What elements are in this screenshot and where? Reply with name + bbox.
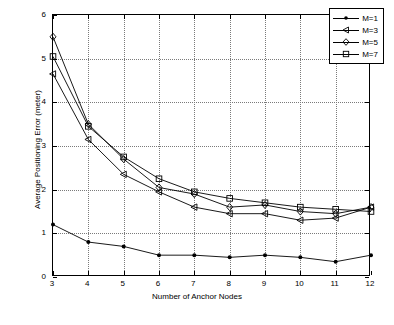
legend-label-m1: M=1 bbox=[362, 14, 378, 23]
data-point-dot bbox=[298, 255, 302, 259]
x-tick-label: 11 bbox=[331, 279, 339, 288]
series-line bbox=[53, 74, 371, 220]
legend-item-m1: M=1 bbox=[333, 12, 378, 24]
x-axis-label: Number of Anchor Nodes bbox=[0, 292, 394, 301]
legend-label-m5: M=5 bbox=[362, 38, 378, 47]
legend-item-m7: M=7 bbox=[333, 48, 378, 60]
chart-container: 34567891011120123456 Number of Anchor No… bbox=[0, 0, 394, 325]
data-point-dot bbox=[334, 260, 338, 264]
legend-label-m3: M=3 bbox=[362, 26, 378, 35]
legend-marker-square-icon bbox=[333, 48, 359, 60]
x-tick-label: 3 bbox=[50, 279, 54, 288]
data-point-triangle-left bbox=[50, 71, 56, 77]
legend-item-m5: M=5 bbox=[333, 36, 378, 48]
legend-marker-dot-icon bbox=[333, 12, 359, 24]
x-tick-label: 12 bbox=[366, 279, 375, 288]
x-tick-mark bbox=[371, 271, 372, 275]
data-point-dot bbox=[192, 253, 196, 257]
y-tick-label: 0 bbox=[24, 272, 46, 281]
series-line bbox=[53, 56, 371, 211]
data-point-dot bbox=[263, 253, 267, 257]
x-tick-label: 10 bbox=[295, 279, 304, 288]
y-tick-mark bbox=[365, 277, 369, 278]
legend-marker-diamond-icon bbox=[333, 36, 359, 48]
data-point-dot bbox=[369, 253, 373, 257]
series-line bbox=[53, 225, 371, 262]
legend-marker-triangle-left-icon bbox=[333, 24, 359, 36]
series-m5 bbox=[50, 33, 374, 217]
data-point-dot bbox=[157, 253, 161, 257]
legend: M=1 M=3 M=5 M=7 bbox=[329, 8, 384, 64]
data-series-layer bbox=[53, 15, 371, 277]
plot-area bbox=[52, 14, 370, 276]
series-m1 bbox=[51, 223, 373, 264]
y-axis-label: Average Positioning Error (meter) bbox=[33, 60, 42, 240]
legend-item-m3: M=3 bbox=[333, 24, 378, 36]
y-tick-mark bbox=[53, 277, 57, 278]
x-tick-label: 9 bbox=[262, 279, 266, 288]
data-point-dot bbox=[228, 255, 232, 259]
legend-label-m7: M=7 bbox=[362, 50, 378, 59]
y-tick-label: 6 bbox=[24, 10, 46, 19]
x-tick-label: 8 bbox=[226, 279, 230, 288]
x-tick-label: 6 bbox=[156, 279, 160, 288]
x-tick-label: 5 bbox=[120, 279, 124, 288]
data-point-dot bbox=[122, 244, 126, 248]
x-tick-label: 7 bbox=[191, 279, 195, 288]
series-line bbox=[53, 37, 371, 214]
x-tick-label: 4 bbox=[85, 279, 89, 288]
data-point-dot bbox=[51, 223, 55, 227]
data-point-dot bbox=[86, 240, 90, 244]
